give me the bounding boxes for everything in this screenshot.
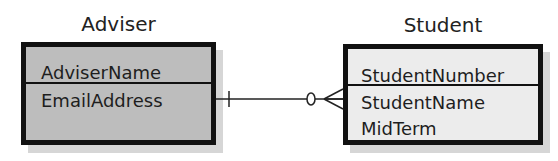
zero-optional-circle-icon (307, 93, 315, 105)
crows-foot-many-icon (324, 89, 343, 109)
relationship-adviser-student[interactable] (0, 0, 558, 161)
